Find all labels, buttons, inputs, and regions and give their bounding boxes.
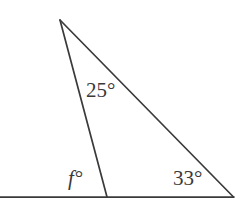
apex-angle-label: 25° — [86, 80, 115, 101]
exterior-angle-variable: f — [68, 166, 75, 190]
triangle-hypotenuse — [60, 20, 234, 197]
exterior-angle-label: f° — [68, 168, 83, 189]
triangle-diagram-canvas — [0, 0, 249, 208]
geometry-figure: 25° f° 33° — [0, 0, 249, 208]
exterior-angle-degree-symbol: ° — [75, 166, 83, 190]
base-angle-label: 33° — [173, 168, 202, 189]
